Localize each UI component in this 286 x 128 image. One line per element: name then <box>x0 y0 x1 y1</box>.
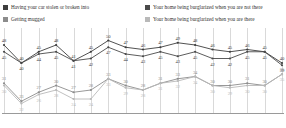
series-point <box>125 84 127 86</box>
data-label: 33 <box>106 81 110 86</box>
data-label: 47 <box>106 50 110 55</box>
series-point <box>38 51 40 53</box>
series-point <box>281 73 283 75</box>
data-label: 30 <box>262 78 266 83</box>
data-label: 32 <box>176 84 180 89</box>
legend-label-burglarized-there: Your home being burglarized when you are… <box>153 16 255 22</box>
data-label: 29 <box>123 90 127 95</box>
series-point <box>246 84 248 86</box>
legend-item-burglarized-there: Your home being burglarized when you are… <box>145 16 255 22</box>
series-point <box>3 51 5 53</box>
series-point <box>211 57 213 59</box>
series-point <box>142 48 144 50</box>
data-label: 30 <box>210 88 214 93</box>
data-label: 31 <box>158 76 162 81</box>
data-label: 44 <box>37 57 41 62</box>
series-point <box>90 57 92 59</box>
data-label: 46 <box>245 42 249 47</box>
data-label: 42 <box>210 61 214 66</box>
series-point <box>55 44 57 46</box>
series-point <box>55 84 57 86</box>
data-label: 44 <box>123 57 127 62</box>
data-label: 43 <box>141 59 145 64</box>
series-point <box>38 91 40 93</box>
series-point <box>38 93 40 95</box>
legend-label-burglarized-not-there: Your home being burglarized when you are… <box>153 4 262 10</box>
series-line <box>4 74 282 103</box>
series-point <box>229 84 231 86</box>
data-label: 30 <box>245 88 249 93</box>
series-point <box>3 44 5 46</box>
series-point <box>55 89 57 91</box>
data-label: 46 <box>141 42 145 47</box>
series-point <box>246 51 248 53</box>
data-label: 48 <box>193 38 197 43</box>
data-label: 35 <box>280 67 284 72</box>
data-label: 30 <box>54 78 58 83</box>
series-point <box>107 39 109 41</box>
series-point <box>211 84 213 86</box>
data-label: 50 <box>106 33 110 38</box>
data-label: 45 <box>262 44 266 49</box>
series-point <box>264 84 266 86</box>
legend-label-car: Having your car stolen or broken into <box>11 4 89 10</box>
data-label: 45 <box>228 44 232 49</box>
data-label: 47 <box>123 40 127 45</box>
data-label: 22 <box>19 106 23 111</box>
data-label: 27 <box>37 85 41 90</box>
data-label: 40 <box>19 56 23 61</box>
series-point <box>229 57 231 59</box>
data-label: 29 <box>228 90 232 95</box>
data-label: 35 <box>280 77 284 82</box>
data-label: 33 <box>106 71 110 76</box>
series-point <box>107 78 109 80</box>
data-label: 40 <box>280 56 284 61</box>
series-point <box>55 51 57 53</box>
data-label: 45 <box>2 54 6 59</box>
series-point <box>20 62 22 64</box>
chart-legend: Having your car stolen or broken into Ge… <box>0 0 286 28</box>
series-point <box>194 44 196 46</box>
data-label: 45 <box>89 44 93 49</box>
series-point <box>246 82 248 84</box>
series-point <box>125 87 127 89</box>
series-point <box>90 51 92 53</box>
series-point <box>177 78 179 80</box>
data-label: 30 <box>262 88 266 93</box>
series-point <box>159 46 161 48</box>
series-point <box>281 62 283 64</box>
data-label: 47 <box>158 40 162 45</box>
data-label: 42 <box>89 61 93 66</box>
data-label: 45 <box>193 54 197 59</box>
data-label: 46 <box>210 42 214 47</box>
data-label: 45 <box>158 54 162 59</box>
data-label: 30 <box>210 78 214 83</box>
legend-swatch-burglarized-there <box>145 17 150 22</box>
data-label: 49 <box>176 35 180 40</box>
data-label: 31 <box>158 86 162 91</box>
data-label: 28 <box>89 83 93 88</box>
data-label: 28 <box>54 93 58 98</box>
series-point <box>20 102 22 104</box>
legend-item-mugged: Getting mugged <box>3 16 45 22</box>
series-point <box>246 48 248 50</box>
series-point <box>211 48 213 50</box>
series-point <box>159 51 161 53</box>
chart-baseline-axis <box>2 113 284 114</box>
series-point <box>194 51 196 53</box>
data-label: 24 <box>89 102 93 107</box>
data-label: 42 <box>228 61 232 66</box>
series-point <box>90 89 92 91</box>
legend-swatch-car <box>3 5 8 10</box>
series-point <box>194 75 196 77</box>
data-label: 30 <box>2 88 6 93</box>
series-point <box>159 82 161 84</box>
data-label: 48 <box>2 38 6 43</box>
data-label: 28 <box>141 93 145 98</box>
series-point <box>177 42 179 44</box>
data-label: 45 <box>262 54 266 59</box>
series-point <box>72 60 74 62</box>
series-point <box>20 100 22 102</box>
data-label: 23 <box>19 94 23 99</box>
data-label: 43 <box>176 59 180 64</box>
